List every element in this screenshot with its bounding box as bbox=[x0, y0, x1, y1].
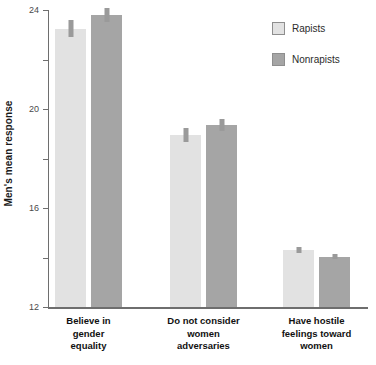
category-label-line: women bbox=[144, 328, 264, 341]
y-axis-tick: 4 bbox=[43, 258, 48, 259]
y-axis-tick: 24 bbox=[43, 10, 48, 11]
y-axis-tick: 0 bbox=[43, 307, 48, 308]
bar-rapists bbox=[283, 250, 314, 307]
error-bar bbox=[68, 20, 73, 37]
legend-swatch-rapists-icon bbox=[272, 22, 285, 35]
category-label-line: Do not consider bbox=[144, 315, 264, 328]
category-label-line: Have hostile bbox=[257, 315, 376, 328]
y-axis-tick-label: 16 bbox=[29, 203, 39, 213]
error-bar bbox=[104, 8, 109, 22]
legend-swatch-nonrapists-icon bbox=[272, 53, 285, 66]
error-bar bbox=[219, 119, 224, 131]
y-axis-tick-label: 12 bbox=[29, 302, 39, 312]
legend: Rapists Nonrapists bbox=[272, 22, 340, 84]
bar-rapists bbox=[55, 29, 86, 307]
bar-nonrapists bbox=[319, 257, 350, 307]
y-axis-title-label: Men's mean response bbox=[4, 101, 15, 207]
category-label-line: equality bbox=[29, 340, 149, 353]
y-axis-line bbox=[48, 10, 49, 307]
y-axis-tick-label: 24 bbox=[29, 5, 39, 15]
error-bar bbox=[296, 247, 301, 253]
bar-rapists bbox=[170, 135, 201, 307]
x-axis-line bbox=[48, 307, 368, 309]
legend-item-rapists[interactable]: Rapists bbox=[272, 22, 340, 35]
legend-label-nonrapists: Nonrapists bbox=[292, 54, 340, 65]
category-label-line: feelings toward bbox=[257, 328, 376, 341]
y-axis-tick: 8 bbox=[43, 208, 48, 209]
bar-nonrapists bbox=[206, 125, 237, 307]
y-axis-tick-label: 20 bbox=[29, 104, 39, 114]
category-label-line: gender bbox=[29, 328, 149, 341]
category-label-line: women bbox=[257, 340, 376, 353]
y-axis-tick: 20 bbox=[43, 60, 48, 61]
legend-label-rapists: Rapists bbox=[292, 23, 325, 34]
bar-chart: Men's mean response 04812162024 Believe … bbox=[0, 0, 376, 365]
legend-item-nonrapists[interactable]: Nonrapists bbox=[272, 53, 340, 66]
category-label: Have hostilefeelings towardwomen bbox=[257, 315, 376, 353]
error-bar bbox=[332, 254, 337, 259]
category-label: Believe ingenderequality bbox=[29, 315, 149, 353]
error-bar bbox=[183, 128, 188, 143]
category-label-line: Believe in bbox=[29, 315, 149, 328]
y-axis-tick: 16 bbox=[43, 109, 48, 110]
category-label: Do not considerwomenadversaries bbox=[144, 315, 264, 353]
bar-nonrapists bbox=[91, 15, 122, 307]
category-label-line: adversaries bbox=[144, 340, 264, 353]
y-axis-tick: 12 bbox=[43, 159, 48, 160]
y-axis-title: Men's mean response bbox=[0, 0, 18, 307]
